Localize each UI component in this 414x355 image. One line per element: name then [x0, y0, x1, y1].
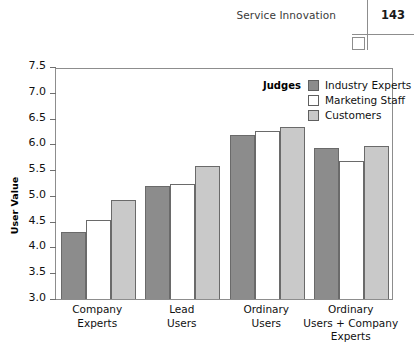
legend-item: Industry Experts [308, 79, 411, 91]
y-axis-tick-label: 5.0 [29, 188, 47, 201]
bar [364, 146, 389, 299]
y-axis-tick-label: 7.0 [29, 85, 47, 98]
y-axis-title: User Value [9, 171, 20, 241]
x-axis-label-line: Company [72, 303, 122, 315]
bar [145, 186, 170, 299]
empty-square-icon [352, 37, 365, 50]
x-axis-label-line: Ordinary [243, 303, 289, 315]
x-axis-label-line: Users [167, 317, 196, 329]
x-axis-category-labels: CompanyExpertsLeadUsersOrdinaryUsersOrdi… [55, 303, 393, 355]
plot-area: 3.03.54.04.55.05.56.06.57.07.5 Judges In… [55, 68, 393, 300]
y-axis-tick-label: 7.5 [29, 59, 47, 72]
x-axis-label-line: Experts [77, 317, 117, 329]
bar [255, 131, 280, 299]
bar [111, 200, 136, 299]
bar [195, 166, 220, 299]
y-axis-tick-label: 6.0 [29, 136, 47, 149]
legend-item: Marketing Staff [308, 94, 411, 106]
x-axis-label-line: Ordinary [328, 303, 374, 315]
legend-swatch-icon [308, 80, 319, 91]
running-head-horizontal-rule [352, 34, 414, 35]
y-axis-tick-mark [50, 67, 56, 68]
page: Service Innovation 143 User Value 3.03.5… [0, 0, 414, 355]
legend-label: Customers [325, 109, 381, 121]
legend-items: Industry ExpertsMarketing StaffCustomers [308, 79, 411, 121]
x-axis-label-line: Users [252, 317, 281, 329]
x-axis-label-line: Lead [169, 303, 194, 315]
running-head-title: Service Innovation [236, 9, 336, 21]
bar [314, 148, 339, 299]
bar-group [56, 69, 141, 299]
running-head-vertical-rule-lower [367, 34, 368, 50]
bar-group [141, 69, 226, 299]
y-axis-tick-label: 6.5 [29, 111, 47, 124]
bar [61, 232, 86, 299]
x-axis-label-line: Experts [331, 330, 371, 342]
legend-title: Judges [263, 79, 301, 91]
y-axis-tick-label: 5.5 [29, 162, 47, 175]
bar [230, 135, 255, 299]
bar-chart-figure: User Value 3.03.54.04.55.05.56.06.57.07.… [0, 60, 414, 355]
x-axis-label-line: Users + Company [303, 317, 398, 329]
y-axis-tick-label: 4.0 [29, 239, 47, 252]
y-axis-tick-mark [50, 299, 56, 300]
y-axis-tick-label: 4.5 [29, 214, 47, 227]
bar [170, 184, 195, 299]
bar [86, 220, 111, 299]
y-axis-tick-label: 3.5 [29, 265, 47, 278]
bar [339, 161, 364, 299]
legend-swatch-icon [308, 95, 319, 106]
running-head: Service Innovation 143 [0, 0, 414, 58]
bar [280, 127, 305, 299]
x-axis-category-label: OrdinaryUsers + CompanyExperts [295, 303, 408, 344]
legend-swatch-icon [308, 110, 319, 121]
page-number: 143 [381, 8, 405, 22]
legend-item: Customers [308, 109, 411, 121]
legend-label: Marketing Staff [325, 94, 405, 106]
legend-label: Industry Experts [325, 79, 411, 91]
legend: Judges Industry ExpertsMarketing StaffCu… [263, 79, 411, 121]
